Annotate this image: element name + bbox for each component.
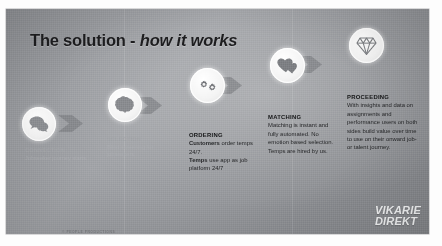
page-title: The solution - how it works <box>30 31 237 50</box>
step-body-proceeding: With insights and data on assignments an… <box>347 101 421 151</box>
step-body-ordering-line2-strong: Temps <box>189 157 208 163</box>
step-body-ordering-line1: Customers order temps 24/7. <box>189 139 255 156</box>
page-title-main: The solution - <box>30 31 135 49</box>
step-body-selection: Blind screening for jobseekers <box>107 144 177 159</box>
step-text-matching: MATCHING Matching is instant and fully a… <box>268 113 334 155</box>
brand-logo-line2: DIREKT <box>375 216 421 227</box>
step-body-ordering-line1-strong: Customers <box>189 140 220 146</box>
step-body-connection: Jobseeker journey starts. <box>25 155 97 163</box>
speech-bubbles-icon <box>22 107 56 141</box>
step-text-selection: SELECTION Blind screening for jobseekers <box>107 136 177 159</box>
step-text-proceeding: PROCEEDING With insights and data on ass… <box>347 93 421 152</box>
copyright-footnote: © PEOPLE PRODUCTIONS <box>62 230 115 234</box>
step-heading-proceeding: PROCEEDING <box>347 93 421 101</box>
step-text-connection: CONNECTION Jobseeker journey starts. <box>25 147 97 162</box>
brand-logo-line1: VIKARIE <box>375 205 421 216</box>
step-heading-selection: SELECTION <box>107 136 177 144</box>
step-body-matching: Matching is instant and fully automated.… <box>268 121 334 155</box>
slide-canvas: The solution - how it works CONNECTION J… <box>6 9 429 234</box>
step-heading-ordering: ORDERING <box>189 131 255 139</box>
gears-icon <box>190 68 225 103</box>
diamond-icon <box>349 28 384 63</box>
page-title-emphasis: how it works <box>140 31 238 49</box>
chevron-arrow-icon <box>58 113 84 134</box>
step-heading-matching: MATCHING <box>268 113 334 121</box>
step-text-ordering: ORDERING Customers order temps 24/7. Tem… <box>189 131 255 172</box>
brand-logo: VIKARIE DIREKT <box>375 205 421 226</box>
brain-icon <box>108 88 142 122</box>
step-heading-connection: CONNECTION <box>25 147 97 155</box>
hearts-icon <box>270 48 305 83</box>
step-body-ordering-line2: Temps use app as job platform 24/7 <box>189 156 255 173</box>
